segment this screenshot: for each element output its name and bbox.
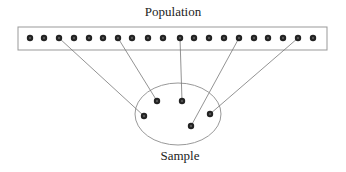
selection-line <box>118 38 157 101</box>
population-dot-center <box>267 37 269 39</box>
selection-line <box>191 38 239 126</box>
population-dot-center <box>58 37 60 39</box>
population-dot-center <box>297 37 299 39</box>
population-dot-center <box>117 37 119 39</box>
sample-dot-center <box>143 115 145 117</box>
sampling-diagram: Population Sample <box>0 0 346 172</box>
population-dot-center <box>43 37 45 39</box>
population-dot-center <box>282 37 284 39</box>
sample-label: Sample <box>161 148 200 164</box>
sample-dot-center <box>181 100 183 102</box>
selection-line <box>180 38 182 101</box>
population-dot-center <box>73 37 75 39</box>
sample-dot-center <box>190 125 192 127</box>
population-dot-center <box>147 37 149 39</box>
population-dot-center <box>208 37 210 39</box>
population-dot-center <box>223 37 225 39</box>
population-dot-center <box>102 37 104 39</box>
diagram-canvas <box>0 0 346 172</box>
population-dot-center <box>162 37 164 39</box>
population-dot-center <box>193 37 195 39</box>
population-dot-center <box>179 37 181 39</box>
population-dot-center <box>29 37 31 39</box>
population-dot-center <box>312 37 314 39</box>
sample-dot-center <box>209 113 211 115</box>
population-dot-center <box>253 37 255 39</box>
sample-dot-center <box>156 100 158 102</box>
population-dot-center <box>88 37 90 39</box>
population-dot-center <box>131 37 133 39</box>
selection-line <box>210 38 298 114</box>
population-dot-center <box>238 37 240 39</box>
